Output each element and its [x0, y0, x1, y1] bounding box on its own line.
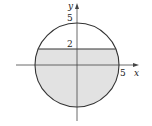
- tick-label-y-5: 5: [67, 13, 73, 23]
- tick-label-x-5: 5: [120, 68, 126, 78]
- y-axis-arrow-icon: [75, 3, 79, 9]
- x-axis-arrow-icon: [133, 63, 139, 67]
- x-axis-label: x: [134, 68, 139, 78]
- tick-label-y-2: 2: [67, 39, 73, 49]
- y-axis-label: y: [67, 1, 74, 11]
- diagram-canvas: y 5 2 5 x: [0, 0, 152, 126]
